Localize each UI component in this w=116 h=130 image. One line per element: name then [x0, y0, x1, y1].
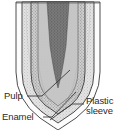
label-enamel: Enamel [2, 111, 34, 122]
label-plastic-sleeve-line2: sleeve [86, 105, 113, 116]
tooth-diagram-figure: Pulp Enamel Plastic sleeve [0, 0, 116, 130]
label-pulp: Pulp [4, 90, 23, 101]
tooth-diagram-svg: Pulp Enamel Plastic sleeve [0, 0, 116, 130]
